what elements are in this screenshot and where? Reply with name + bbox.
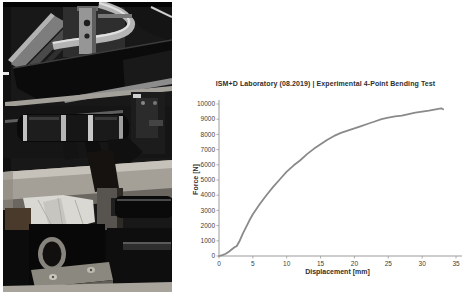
x-tick-label: 5 [251,260,255,267]
actuator-cylinder [111,196,172,218]
x-tick-label: 10 [283,260,291,267]
x-tick-label: 35 [452,260,460,267]
x-tick-label: 0 [217,260,221,267]
force-curve [219,108,443,256]
load-rollers [17,114,129,142]
y-tick-label: 1000 [201,237,216,244]
y-tick-label: 0 [211,252,215,259]
y-tick-label: 3000 [201,207,216,214]
frame-column [77,6,98,54]
y-tick-label: 10000 [197,100,215,107]
x-tick-label: 15 [317,260,325,267]
y-tick-label: 6000 [201,161,216,168]
chart-title: ISM+D Laboratory (08.2019) | Experimenta… [183,80,468,87]
y-tick-label: 5000 [201,176,216,183]
test-rig-photo [3,2,172,292]
y-tick-label: 9000 [201,115,216,122]
x-axis-title: Displacement [mm] [219,268,456,275]
bright-speck [3,72,9,75]
y-tick-label: 2000 [201,222,216,229]
right-pit [107,228,172,288]
y-tick-label: 8000 [201,131,216,138]
loading-post [131,92,165,154]
x-tick-label: 30 [419,260,427,267]
y-tick-label: 7000 [201,146,216,153]
x-tick-label: 25 [385,260,393,267]
force-displacement-chart: ISM+D Laboratory (08.2019) | Experimenta… [183,76,468,297]
test-rig-photo-image [3,2,172,292]
chart-plot-area: 0100020003000400050006000700080009000100… [183,92,466,282]
y-tick-label: 4000 [201,191,216,198]
x-tick-label: 20 [351,260,359,267]
